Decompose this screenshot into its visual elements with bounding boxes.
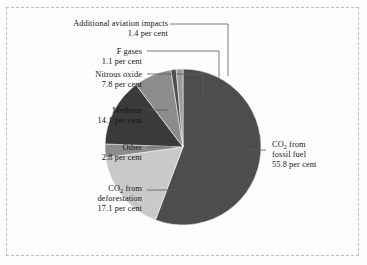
callout-name-deforestation-line2: deforestation: [22, 194, 142, 204]
callout-name-other: Other: [22, 143, 142, 153]
callout-label-fossil-fuel: CO2 from fossil fuel 55.8 per cent: [272, 140, 362, 171]
co2-text: CO: [108, 184, 120, 193]
callout-value-fgases: 1.1 per cent: [22, 57, 142, 67]
callout-label-nitrous-oxide: Nitrous oxide 7.8 per cent: [22, 70, 142, 90]
callout-label-fgases: F gases 1.1 per cent: [22, 47, 142, 67]
callout-name-methane: Methane: [22, 106, 142, 116]
callout-value-aviation: 1.4 per cent: [22, 29, 168, 39]
figure-container: Additional aviation impacts 1.4 per cent…: [0, 0, 367, 265]
from-text: from: [123, 184, 142, 193]
co2-text: CO: [272, 140, 284, 149]
pie-chart-plot: [0, 0, 367, 265]
from-text: from: [287, 140, 306, 149]
callout-name-deforestation-line1: CO2 from: [22, 184, 142, 194]
callout-label-aviation: Additional aviation impacts 1.4 per cent: [22, 19, 168, 39]
callout-label-methane: Methane 14.1 per cent: [22, 106, 142, 126]
callout-name-fossil-line1: CO2 from: [272, 140, 362, 150]
callout-value-deforestation: 17.1 per cent: [22, 204, 142, 214]
co2-subscript: 2: [284, 143, 287, 150]
callout-name-nitrous-oxide: Nitrous oxide: [22, 70, 142, 80]
callout-name-fossil-line2: fossil fuel: [272, 150, 362, 160]
callout-label-other: Other 2.8 per cent: [22, 143, 142, 163]
callout-label-deforestation: CO2 from deforestation 17.1 per cent: [22, 184, 142, 215]
callout-name-aviation: Additional aviation impacts: [22, 19, 168, 29]
callout-name-fgases: F gases: [22, 47, 142, 57]
callout-value-nitrous-oxide: 7.8 per cent: [22, 80, 142, 90]
callout-value-methane: 14.1 per cent: [22, 116, 142, 126]
callout-value-other: 2.8 per cent: [22, 153, 142, 163]
co2-subscript: 2: [120, 187, 123, 194]
callout-value-fossil: 55.8 per cent: [272, 160, 362, 170]
